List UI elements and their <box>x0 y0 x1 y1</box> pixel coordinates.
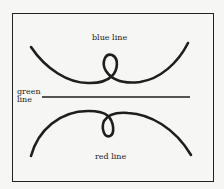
blue-line-label: blue line <box>92 34 127 42</box>
red-line-curve <box>31 111 191 156</box>
red-line-label: red line <box>95 153 126 161</box>
green-line-label-word2: line <box>17 96 41 104</box>
green-line-label: green line <box>17 88 41 104</box>
blue-line-curve <box>31 43 188 83</box>
